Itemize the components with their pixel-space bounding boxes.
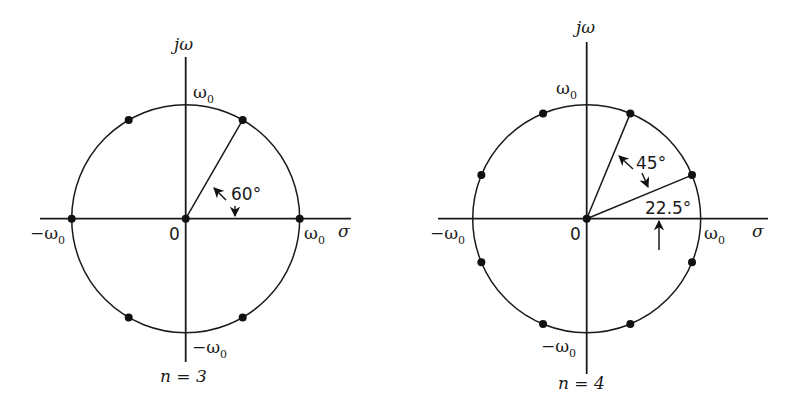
left-neg-w0-label: −ω0: [430, 223, 465, 247]
pole-dot: [296, 215, 304, 223]
pole-dot: [477, 258, 485, 266]
panel-caption: n = 4: [558, 373, 605, 393]
angle-arrow-45-upper: [619, 156, 633, 169]
angle-arrow-45-lower: [642, 173, 648, 187]
bottom-neg-w0-label: −ω0: [541, 336, 576, 360]
imag-axis-label: jω: [170, 34, 193, 54]
pole-diagram-n4: 45° 22.5° jω σ 0 ω0 −ω0 −ω0 ω0 n = 4: [430, 17, 768, 393]
right-w0-label: ω0: [304, 223, 325, 247]
pole-dot: [239, 313, 247, 321]
figure-canvas: 60° jω σ 0 ω0 −ω0 −ω0 ω0 n = 3: [0, 0, 788, 412]
pole-dot: [477, 171, 485, 179]
origin-label: 0: [169, 224, 180, 244]
real-axis-label: σ: [752, 221, 764, 241]
angle-label-60: 60°: [231, 184, 261, 204]
pole-dot: [182, 215, 190, 223]
top-w0-label: ω0: [193, 82, 214, 106]
angle-arrow-upper: [214, 188, 226, 200]
pole-dot: [688, 171, 696, 179]
bottom-neg-w0-label: −ω0: [192, 337, 227, 361]
origin-label: 0: [570, 224, 581, 244]
pole-dot: [626, 109, 634, 117]
pole-dot: [539, 109, 547, 117]
top-w0-label: ω0: [556, 78, 577, 102]
pole-diagram-n3: 60° jω σ 0 ω0 −ω0 −ω0 ω0 n = 3: [30, 34, 351, 386]
angle-label-45: 45°: [636, 153, 666, 173]
real-axis-label: σ: [338, 221, 350, 241]
pole-dot: [626, 320, 634, 328]
angle-label-22.5: 22.5°: [645, 198, 691, 218]
imag-axis-label: jω: [572, 17, 595, 37]
panel-caption: n = 3: [160, 366, 207, 386]
left-neg-w0-label: −ω0: [30, 223, 65, 247]
right-w0-label: ω0: [704, 223, 725, 247]
pole-dot: [68, 215, 76, 223]
pole-dot: [583, 215, 591, 223]
pole-dot: [688, 258, 696, 266]
pole-dot: [125, 313, 133, 321]
pole-dot: [239, 116, 247, 124]
pole-dot: [539, 320, 547, 328]
pole-dot: [125, 116, 133, 124]
